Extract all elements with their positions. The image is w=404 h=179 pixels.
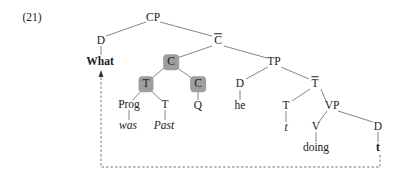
node-v: V (312, 121, 320, 133)
word-t-trace: t (284, 122, 287, 134)
word-past: Past (154, 120, 174, 132)
word-d-trace: t (376, 142, 380, 154)
node-prog: Prog (118, 99, 140, 111)
node-d-subj: D (236, 78, 244, 90)
word-was: was (119, 120, 137, 132)
node-d-obj: D (374, 121, 382, 133)
node-c-q-shaded: C (190, 76, 206, 92)
example-number: (21) (22, 12, 41, 24)
node-d-spec: D (97, 35, 105, 47)
word-doing: doing (303, 142, 329, 154)
node-c-bar: C (214, 35, 222, 47)
node-c-head-shaded: C (163, 54, 179, 70)
node-t-past: T (161, 99, 168, 111)
word-what: What (86, 56, 113, 68)
word-he: he (235, 100, 246, 112)
node-t-bar: T (311, 78, 318, 90)
node-cp: CP (146, 12, 160, 24)
node-q: Q (194, 100, 202, 112)
node-vp: VP (325, 100, 340, 112)
arrowhead-icon (99, 70, 104, 77)
node-tp: TP (267, 56, 280, 68)
syntax-tree-diagram: (21) CP D What C C T C Prog was T Past Q… (0, 0, 404, 179)
node-t-moved-shaded: T (138, 76, 153, 92)
node-t-trace: T (282, 100, 289, 112)
